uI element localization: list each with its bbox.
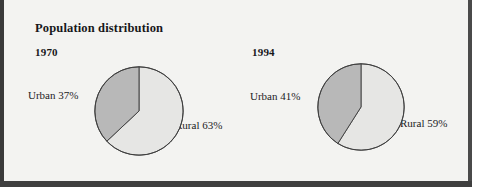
chart-year-label-1970: 1970 [35, 46, 58, 58]
figure-title: Population distribution [35, 21, 163, 36]
pie-chart-1970 [93, 65, 185, 157]
pie-chart-1970-svg [93, 65, 185, 157]
pie-chart-1994-svg [316, 62, 406, 152]
chart-year-label-1994: 1994 [252, 46, 275, 58]
scan-edge-bottom [0, 181, 472, 187]
figure-population-distribution: Population distribution 1970 Urban 37% R… [0, 0, 501, 187]
slice-label-rural-1994: Rural 59% [400, 117, 447, 129]
outer-margin [472, 0, 501, 187]
slice-label-urban-1994: Urban 41% [250, 90, 300, 102]
slice-label-urban-1970: Urban 37% [28, 89, 78, 101]
pie-chart-1994 [316, 62, 406, 152]
scan-edge-left [0, 0, 4, 187]
